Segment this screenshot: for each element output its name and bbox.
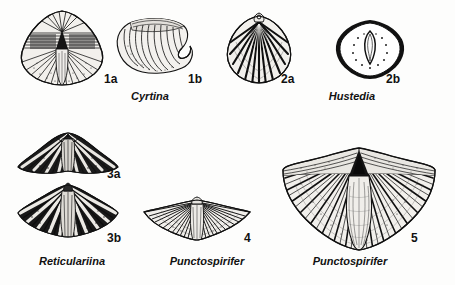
figure-label-2a: 2a: [281, 72, 294, 86]
figure-3b-reticulariina: [16, 183, 120, 239]
genus-caption-punctospirifer-5: Punctospirifer: [300, 255, 400, 267]
figure-label-5: 5: [411, 231, 418, 245]
genus-caption-hustedia: Hustedia: [312, 90, 392, 102]
figure-3a-reticulariina: [16, 131, 120, 177]
genus-caption-punctospirifer-4: Punctospirifer: [157, 255, 257, 267]
genus-caption-cyrtina: Cyrtina: [110, 90, 190, 102]
figure-label-2b: 2b: [386, 72, 400, 86]
figure-label-3a: 3a: [107, 167, 120, 181]
figure-4-punctospirifer: [143, 196, 251, 244]
figure-label-3b: 3b: [107, 231, 121, 245]
genus-caption-reticulariina: Reticulariina: [22, 255, 122, 267]
figure-label-1b: 1b: [188, 72, 202, 86]
figure-1b-cyrtina: [112, 12, 196, 82]
figure-2b-hustedia: [334, 18, 406, 80]
illustration-plate: 1a: [0, 0, 455, 285]
figure-label-4: 4: [244, 231, 251, 245]
figure-1a-cyrtina: [16, 8, 108, 88]
